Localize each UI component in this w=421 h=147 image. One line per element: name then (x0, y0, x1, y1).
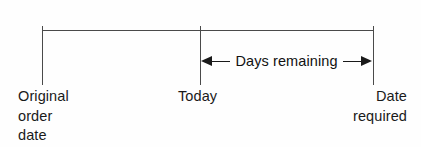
arrow-right-icon (361, 56, 372, 66)
tick-date-required (373, 26, 374, 85)
timeline-diagram: Days remaining Original order date Today… (0, 0, 421, 147)
label-date-required: Date required (353, 87, 407, 126)
days-remaining-span: Days remaining (200, 50, 373, 73)
tick-original-order-date (42, 26, 43, 85)
timeline-axis-line (42, 30, 373, 31)
label-today: Today (178, 87, 217, 107)
label-original-order-date: Original order date (18, 87, 69, 146)
